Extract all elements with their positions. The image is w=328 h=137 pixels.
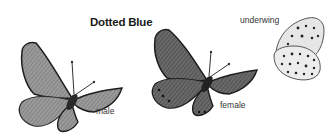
underwing-illustration — [268, 16, 328, 82]
male-label: male — [96, 106, 114, 116]
species-title: Dotted Blue — [90, 16, 152, 28]
female-label: female — [220, 100, 246, 110]
male-butterfly-illustration — [14, 38, 124, 134]
